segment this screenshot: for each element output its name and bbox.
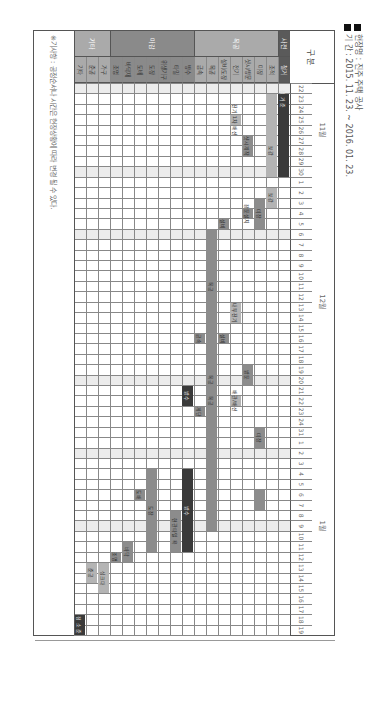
day-label: 31 xyxy=(290,427,312,437)
day-label: 27 xyxy=(290,135,312,145)
day-label: 12 xyxy=(290,552,312,562)
day-label: 9 xyxy=(290,260,312,270)
day-label: 28 xyxy=(290,145,312,155)
gantt-bar: 방수 xyxy=(182,386,193,406)
gantt-bar: 싱크대 xyxy=(98,563,109,593)
gantt-bar: 목공 xyxy=(206,230,217,531)
day-label: 2 xyxy=(290,448,312,458)
day-label: 10 xyxy=(290,270,312,280)
grid-row xyxy=(134,31,146,635)
grid-row xyxy=(98,31,110,635)
period-row: 기 간 : 2015. 11. 23. ~ 2016. 01. 23. xyxy=(343,24,353,177)
schedule-stage: 현장명 : 진주 주택 공사 기 간 : 2015. 11. 23. ~ 201… xyxy=(0,0,366,713)
task-label: 철거 xyxy=(278,57,290,83)
task-label: 방수 xyxy=(182,57,194,83)
task-label: 조적 xyxy=(266,57,278,83)
day-label: 24 xyxy=(290,104,312,114)
grid-row xyxy=(254,31,266,635)
day-label: 11 xyxy=(290,281,312,291)
gantt-bar: 바닥 xyxy=(122,542,133,562)
footnote: ※기사항 : 공정순서나 시간은 현장상황에 따라 변경 될 수 있다. xyxy=(34,31,75,635)
gantt-bar: 내부전기 xyxy=(230,303,241,323)
day-label: 30 xyxy=(290,166,312,176)
day-label: 23 xyxy=(290,406,312,416)
task-label: 바닥재 xyxy=(122,57,134,83)
task-label: 조명 xyxy=(110,57,122,83)
site-label: 현장명 : 진주 주택 공사 xyxy=(353,34,363,110)
gantt-bar: 설비 xyxy=(218,334,229,343)
task-label: 기타 xyxy=(74,57,86,83)
day-label: 4 xyxy=(290,208,312,218)
day-label: 7 xyxy=(290,239,312,249)
page-edge-rule xyxy=(35,640,335,641)
gantt-bar: 샷시제작 xyxy=(242,136,253,156)
day-label: 17 xyxy=(290,604,312,614)
day-label: 13 xyxy=(290,562,312,572)
task-label: 전기 xyxy=(230,57,242,83)
day-label: 14 xyxy=(290,312,312,322)
gantt-bar: 도배 xyxy=(134,490,145,499)
day-label: 22 xyxy=(290,395,312,405)
day-label: 1 xyxy=(290,177,312,187)
period-label: 기 간 : 2015. 11. 23. ~ 2016. 01. 23. xyxy=(343,34,353,177)
day-label: 3 xyxy=(290,458,312,468)
day-label: 16 xyxy=(290,333,312,343)
task-label: 목공 xyxy=(206,57,218,83)
group-header: 구 분 xyxy=(289,31,334,84)
gantt-bar: 방문 xyxy=(242,365,253,385)
gantt-bar: 배관/배선 xyxy=(230,396,241,405)
category-cell: 목공 xyxy=(194,31,278,57)
task-label: 미장 xyxy=(254,57,266,83)
task-label: 타일 xyxy=(170,57,182,83)
day-label: 5 xyxy=(290,479,312,489)
day-label: 13 xyxy=(290,302,312,312)
day-label: 17 xyxy=(290,343,312,353)
day-label: 12 xyxy=(290,291,312,301)
task-label: 준공 xyxy=(86,57,98,83)
day-label: 24 xyxy=(290,416,312,426)
day-label: 6 xyxy=(290,229,312,239)
gantt-grid: 사전목공마감기타철거조적미장샷시/방문전기설비/도장목공금속방수타일위생기구도장… xyxy=(74,31,290,635)
day-label: 16 xyxy=(290,593,312,603)
category-cell: 마감 xyxy=(110,31,194,57)
gantt-bar: 창문설치 xyxy=(242,209,253,218)
gantt-bar: 현관타일 욕 xyxy=(170,511,181,552)
day-label: 6 xyxy=(290,489,312,499)
day-label: 18 xyxy=(290,614,312,624)
day-header: 2223242526272829301234567891011121314151… xyxy=(290,83,312,635)
gantt-bar: 도장 xyxy=(146,469,157,551)
gantt-bar xyxy=(266,94,277,176)
grid-row xyxy=(110,31,122,635)
month-header: 11월12월1월 xyxy=(312,83,334,635)
grid-row xyxy=(74,31,86,635)
day-label: 7 xyxy=(290,500,312,510)
day-label: 2 xyxy=(290,187,312,197)
day-label: 3 xyxy=(290,198,312,208)
day-label: 1 xyxy=(290,437,312,447)
gantt-bar: 설비 xyxy=(218,219,229,228)
category-cell: 사전 xyxy=(278,31,290,57)
task-label: 위생기구 xyxy=(158,57,170,83)
month-label: 11월 xyxy=(312,83,334,177)
task-label: 샷시/방문 xyxy=(242,57,254,83)
day-label: 19 xyxy=(290,625,312,635)
gantt-bar: 방수 xyxy=(182,469,193,551)
day-label: 25 xyxy=(290,114,312,124)
day-label: 15 xyxy=(290,323,312,333)
gantt-bar: 조명 xyxy=(110,553,121,562)
bullet-square-icon xyxy=(345,24,352,31)
day-label: 19 xyxy=(290,364,312,374)
gantt-bar: 미장 xyxy=(254,199,265,229)
site-row: 현장명 : 진주 주택 공사 xyxy=(353,24,363,177)
grid-row xyxy=(158,31,170,635)
day-label: 26 xyxy=(290,125,312,135)
bullet-square-icon xyxy=(355,24,362,31)
task-label: 설비/도장 xyxy=(218,57,230,83)
category-cell: 기타 xyxy=(74,31,110,57)
day-label: 15 xyxy=(290,583,312,593)
day-label: 4 xyxy=(290,468,312,478)
task-label: 가구 xyxy=(98,57,110,83)
gantt-bar: 미장 xyxy=(254,428,265,448)
gantt-bar: 보강 xyxy=(266,188,277,208)
day-label: 20 xyxy=(290,375,312,385)
